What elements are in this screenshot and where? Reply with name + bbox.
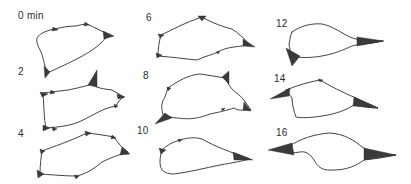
cell-outline — [286, 80, 378, 118]
adhesion-site — [155, 113, 172, 124]
cell-outline-figure: 0 min 2 4 6 8 — [0, 0, 411, 184]
adhesion-site — [88, 70, 97, 87]
panel-label: 10 — [137, 125, 149, 136]
adhesion-site — [84, 22, 89, 26]
adhesion-site — [37, 170, 44, 178]
panel-label: 8 — [143, 70, 149, 81]
adhesion-site — [222, 71, 229, 84]
panel-6-min: 6 — [146, 12, 255, 60]
panel-4-min: 4 — [18, 128, 130, 179]
adhesion-site — [243, 102, 251, 111]
adhesion-site — [120, 147, 130, 155]
panel-label: 12 — [276, 18, 288, 29]
panel-label: 6 — [146, 12, 152, 23]
adhesion-site — [43, 125, 50, 131]
adhesion-site — [243, 39, 255, 47]
panel-2-min: 2 — [18, 66, 125, 131]
cell-outline — [40, 133, 128, 176]
adhesion-site — [268, 143, 294, 155]
cell-outline — [37, 24, 110, 73]
adhesion-site — [156, 53, 162, 58]
adhesion-site — [114, 104, 118, 108]
adhesion-site — [44, 66, 50, 78]
adhesion-site — [158, 34, 164, 38]
panel-12-min: 12 — [276, 18, 384, 66]
panel-14-min: 14 — [270, 73, 378, 118]
panel-0-min: 0 min — [18, 10, 114, 78]
panel-label: 14 — [274, 73, 286, 84]
adhesion-site — [85, 131, 91, 136]
adhesion-site — [52, 27, 58, 31]
adhesion-site — [103, 31, 114, 39]
adhesion-site — [270, 88, 290, 99]
panel-label: 4 — [18, 128, 24, 139]
cell-outline — [43, 84, 124, 128]
cell-outline — [162, 74, 251, 119]
panel-10-min: 10 — [137, 125, 253, 174]
panel-label: 0 min — [18, 10, 44, 21]
adhesion-site — [353, 97, 378, 108]
panel-label: 16 — [276, 127, 288, 138]
panel-16-min: 16 — [268, 127, 396, 170]
panel-label: 2 — [18, 66, 24, 77]
cell-outline — [158, 17, 248, 60]
panel-8-min: 8 — [143, 70, 251, 124]
adhesion-site — [159, 148, 166, 154]
adhesion-site — [216, 51, 220, 54]
adhesion-site — [286, 48, 300, 66]
adhesion-site — [233, 152, 253, 160]
adhesion-site — [357, 37, 384, 46]
adhesion-site — [117, 94, 125, 99]
